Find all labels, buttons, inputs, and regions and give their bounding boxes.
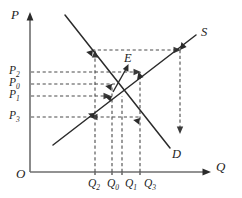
origin-label: O [16,167,25,180]
price-tick-p1-base: P [9,88,16,100]
demand-arrowhead-lower [133,118,140,125]
price-guide-lines [31,47,181,120]
quantity-tick-q2: Q2 [88,178,100,192]
quantity-tick-q1-sub: 1 [133,183,137,192]
guide-line-right-down-arrowhead [177,127,183,135]
cobweb-diagram: P Q O S D E P2 P0 P1 P3 Q2 Q0 Q1 Q3 [0,0,242,198]
price-tick-p3: P3 [9,110,20,124]
quantity-tick-q3-sub: 3 [152,183,156,192]
quantity-tick-q1: Q1 [125,178,137,192]
demand-arrowhead-upper [86,50,93,57]
y-axis-label: P [11,8,19,21]
quantity-tick-q2-sub: 2 [96,183,100,192]
quantity-guide-lines [92,50,183,172]
price-tick-p1: P1 [9,89,20,103]
price-tick-p3-sub: 3 [16,115,20,124]
price-tick-p0-base: P [9,76,16,88]
demand-curve-label: D [172,148,181,161]
y-axis-arrowhead [27,12,34,21]
price-tick-p3-base: P [9,109,16,121]
x-axis-arrowhead [203,169,212,176]
quantity-tick-q0-sub: 0 [115,183,119,192]
price-tick-p2-base: P [9,64,16,76]
quantity-tick-q0: Q0 [107,178,119,192]
demand-curve [65,15,170,148]
demand-curve-group [65,15,170,148]
demand-arrowhead-mid [105,84,112,91]
quantity-tick-q3: Q3 [144,178,156,192]
supply-curve-label: S [201,26,207,39]
equilibrium-label: E [124,52,132,65]
x-axis-label: Q [216,160,225,173]
price-tick-p1-sub: 1 [16,94,20,103]
